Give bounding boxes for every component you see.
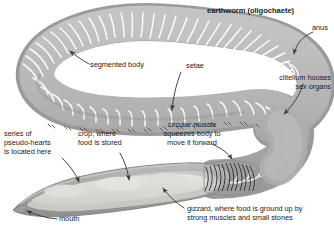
earthworm-diagram: earthworm (oligochaete) anus segmented b…: [0, 0, 334, 229]
label-pseudo-hearts-line3: is located here: [4, 148, 51, 157]
label-segmented-body: segmented body: [90, 61, 144, 70]
label-anus: anus: [312, 24, 328, 33]
segmented-body-leader: [70, 51, 89, 64]
label-clitellum-line2: sex organs: [243, 83, 331, 92]
label-mouth: mouth: [59, 215, 79, 224]
gizzard-organ: [147, 172, 187, 187]
clitellum-band: [278, 124, 289, 167]
label-crop-line2: food is stored: [78, 139, 122, 148]
label-setae: setae: [186, 62, 204, 71]
figure-title: earthworm (oligochaete): [207, 7, 294, 16]
label-circular-muscle-line3: move it forward: [146, 139, 238, 148]
worm-body: [23, 13, 316, 184]
label-gizzard-line2: strong muscles and small stones: [187, 214, 293, 223]
pseudo-hearts-organ: [44, 185, 84, 198]
crop-organ: [96, 177, 140, 191]
diagram-canvas: [0, 0, 334, 229]
